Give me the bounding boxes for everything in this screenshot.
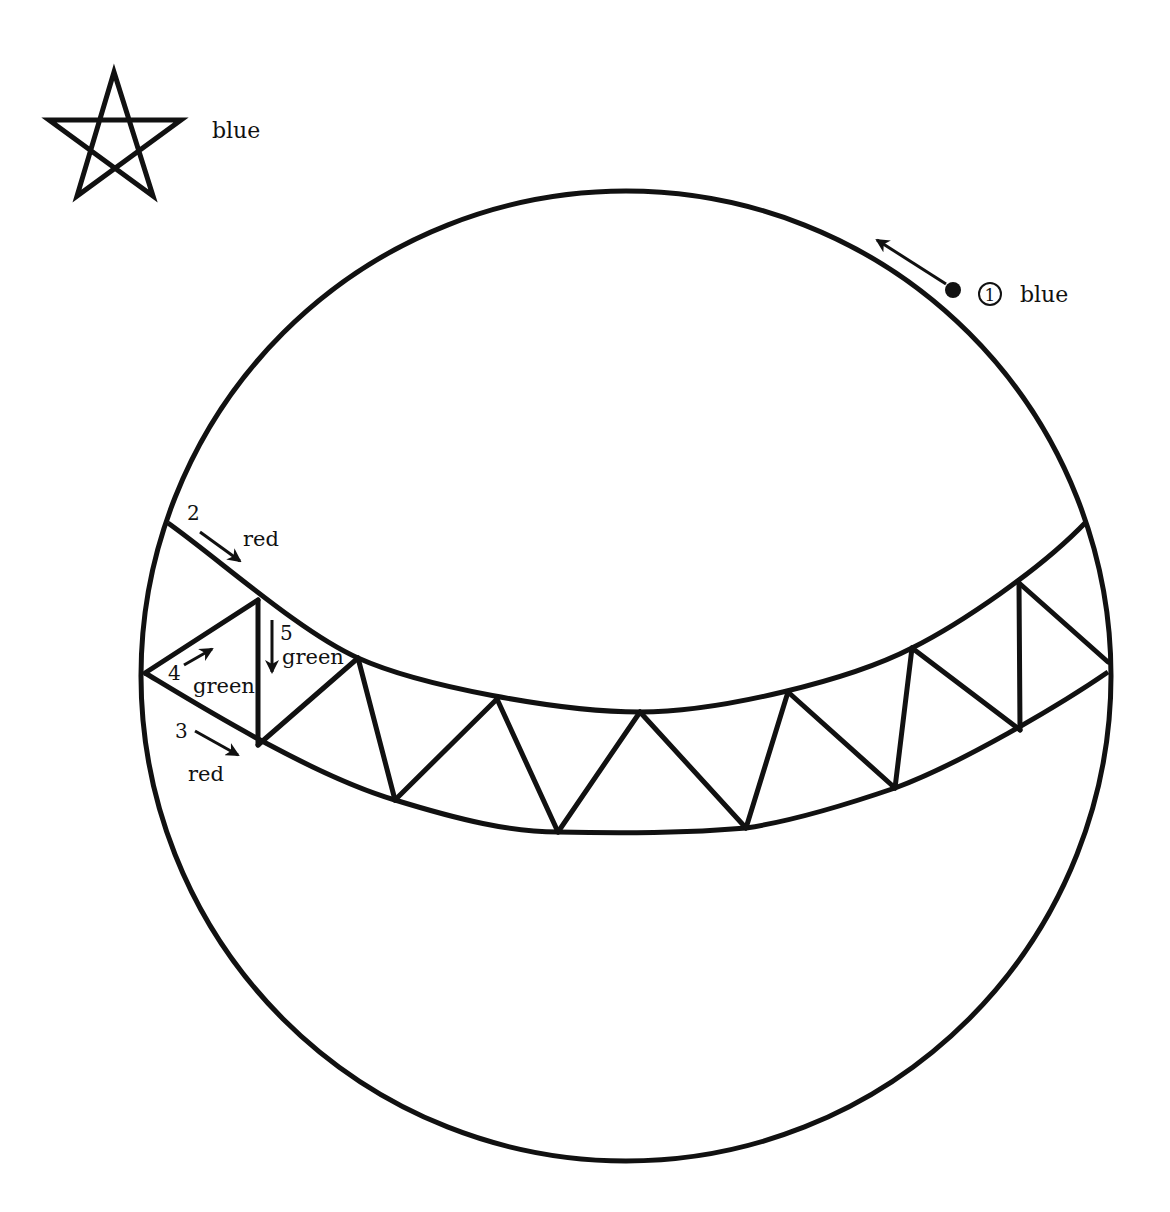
legend-label: blue: [212, 118, 260, 143]
arrow-2: [200, 532, 240, 561]
marker-1: 1 blue: [877, 240, 1068, 307]
band-lower-edge: [145, 672, 1108, 833]
marker-5-color: green: [282, 645, 344, 669]
marker-4-color: green: [193, 674, 255, 698]
marker-1-color: blue: [1020, 282, 1068, 307]
start-dot: [945, 282, 961, 298]
svg-text:5: 5: [280, 621, 293, 645]
arrow-1: [877, 240, 946, 284]
sphere-outline: [141, 191, 1111, 1161]
arrow-4: [184, 649, 212, 665]
marker-2: 2 red: [187, 501, 279, 561]
marker-2-color: red: [243, 527, 279, 551]
marker-4: 4 green: [168, 649, 255, 698]
diagram-canvas: blue 1 blue: [0, 0, 1170, 1212]
svg-text:1: 1: [985, 285, 996, 305]
marker-3: 3 red: [175, 719, 238, 786]
arrow-3: [195, 731, 238, 755]
star-icon: [49, 72, 181, 196]
svg-text:2: 2: [187, 501, 200, 525]
svg-text:4: 4: [168, 661, 181, 685]
svg-text:3: 3: [175, 719, 188, 743]
band-upper-edge: [168, 522, 1086, 712]
marker-3-color: red: [188, 762, 224, 786]
